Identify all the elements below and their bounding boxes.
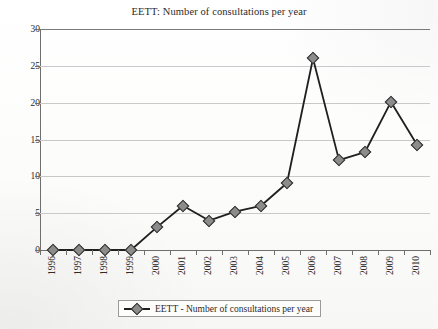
x-tick-label: 2000 — [152, 256, 162, 275]
x-tick-label: 2010 — [412, 256, 422, 275]
plot-area — [40, 29, 430, 250]
y-axis-ticks: 051015202530 — [0, 29, 40, 250]
x-tick-mark — [144, 250, 145, 255]
x-axis-labels: 1996199719981999200020012002200320042005… — [40, 256, 430, 294]
chart-figure: EETT: Number of consultations per year 0… — [0, 0, 438, 329]
x-tick-label: 2008 — [360, 256, 370, 275]
x-tick-label: 2003 — [230, 256, 240, 275]
x-tick-mark — [430, 250, 431, 255]
x-tick-label: 2001 — [178, 256, 188, 275]
x-tick-label: 1997 — [74, 256, 84, 275]
x-tick-label: 2006 — [308, 256, 318, 275]
legend-entry-label: EETT - Number of consultations per year — [155, 304, 313, 314]
x-tick-mark — [222, 250, 223, 255]
x-tick-label: 2005 — [282, 256, 292, 275]
x-tick-label: 2002 — [204, 256, 214, 275]
x-tick-label: 1998 — [100, 256, 110, 275]
x-tick-label: 2004 — [256, 256, 266, 275]
x-tick-mark — [378, 250, 379, 255]
x-tick-label: 2009 — [386, 256, 396, 275]
x-tick-mark — [274, 250, 275, 255]
x-tick-mark — [92, 250, 93, 255]
x-tick-mark — [118, 250, 119, 255]
x-tick-mark — [352, 250, 353, 255]
x-tick-mark — [170, 250, 171, 255]
x-tick-label: 1996 — [48, 256, 58, 275]
x-tick-label: 1999 — [126, 256, 136, 275]
chart-legend: EETT - Number of consultations per year — [118, 300, 321, 317]
x-tick-mark — [300, 250, 301, 255]
x-tick-mark — [196, 250, 197, 255]
chart-title: EETT: Number of consultations per year — [0, 6, 438, 17]
x-tick-mark — [66, 250, 67, 255]
x-tick-mark — [248, 250, 249, 255]
legend-diamond-icon — [124, 304, 150, 313]
x-tick-mark — [40, 250, 41, 255]
x-tick-mark — [326, 250, 327, 255]
x-tick-mark — [404, 250, 405, 255]
x-tick-label: 2007 — [334, 256, 344, 275]
